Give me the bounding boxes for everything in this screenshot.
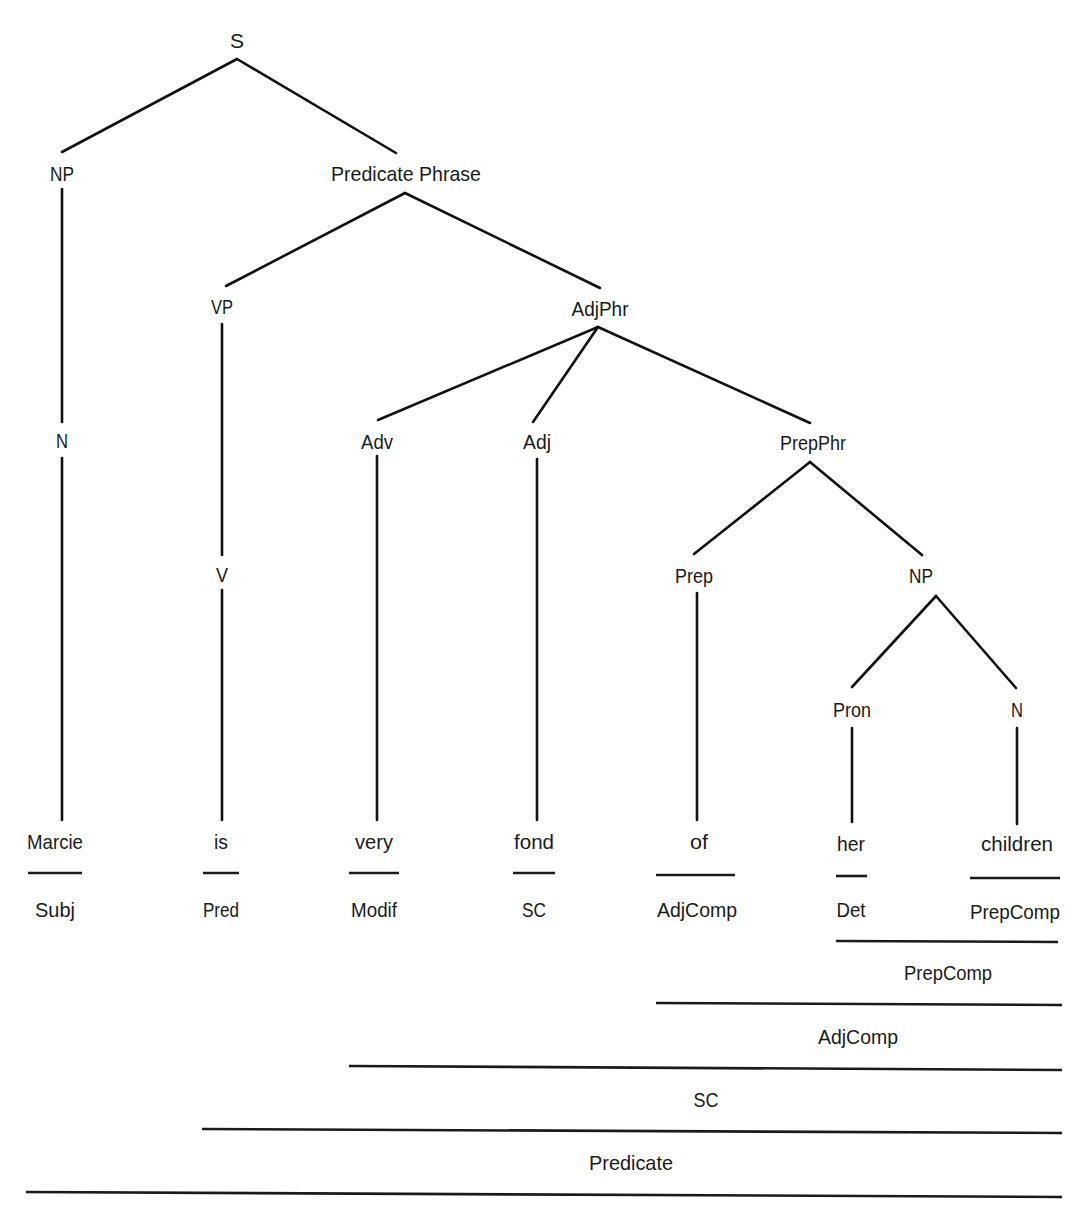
node-VP: VP (211, 295, 233, 318)
word-her: her (837, 832, 865, 855)
word-fond: fond (514, 830, 554, 853)
function-sc: SC (522, 898, 546, 921)
sentence-words: Marcie is very fond of her children (27, 830, 1053, 855)
function-pred: Pred (203, 898, 239, 921)
span-label-predicate: Predicate (589, 1151, 673, 1174)
function-subj: Subj (35, 898, 75, 921)
function-det: Det (837, 898, 866, 921)
function-modif: Modif (351, 898, 397, 921)
node-Adv: Adv (361, 430, 393, 453)
span-label-adjcomp: AdjComp (818, 1025, 898, 1048)
word-very: very (355, 830, 393, 853)
syntax-tree-diagram: S NP Predicate Phrase VP AdjPhr N Adv Ad… (0, 0, 1083, 1215)
word-children: children (981, 832, 1053, 855)
node-PrepPhr: PrepPhr (780, 431, 846, 454)
node-Pron: Pron (833, 698, 871, 721)
node-NP2: NP (909, 564, 933, 587)
word-is: is (214, 830, 228, 853)
node-V: V (216, 563, 228, 586)
span-label-sc: SC (694, 1088, 719, 1111)
function-labels: Subj Pred Modif SC AdjComp Det PrepComp (35, 898, 1060, 923)
word-underlines (28, 873, 1060, 878)
node-NP: NP (50, 162, 74, 185)
word-marcie: Marcie (27, 830, 83, 853)
node-predicate-phrase: Predicate Phrase (331, 162, 481, 185)
node-Prep: Prep (675, 564, 713, 587)
function-adjcomp: AdjComp (657, 898, 737, 921)
span-line-prepcomp (836, 941, 1058, 942)
span-line-predicate (202, 1129, 1062, 1133)
word-of: of (690, 830, 708, 853)
node-AdjPhr: AdjPhr (572, 297, 629, 320)
span-line-sentence (26, 1192, 1062, 1197)
span-label-prepcomp: PrepComp (904, 961, 992, 984)
span-line-sc (349, 1066, 1062, 1070)
node-Adj: Adj (523, 430, 551, 453)
span-line-adjcomp (656, 1003, 1062, 1005)
function-prepcomp: PrepComp (970, 900, 1060, 923)
node-N2: N (1011, 698, 1023, 721)
node-N: N (56, 429, 68, 452)
span-brackets: PrepComp AdjComp SC Predicate (26, 941, 1062, 1197)
node-S: S (230, 29, 244, 52)
